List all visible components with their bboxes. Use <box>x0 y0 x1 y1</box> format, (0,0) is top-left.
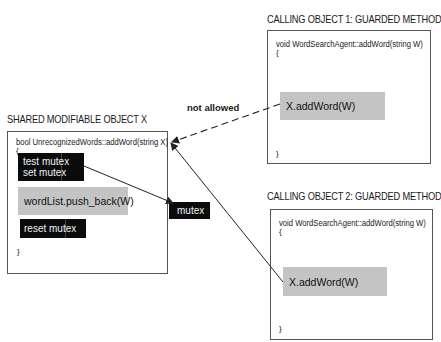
close-brace: } <box>17 247 20 256</box>
shared-object-title: SHARED MODIFIABLE OBJECT X <box>7 113 147 125</box>
close-brace: } <box>279 324 282 333</box>
shared-object-signature: bool UnrecognizedWords::addWord(string X… <box>16 137 168 147</box>
open-brace: { <box>276 48 279 57</box>
call-statement-2: X.addWord(W) <box>289 276 358 288</box>
calling-object-1-title: CALLING OBJECT 1: GUARDED METHOD <box>267 13 441 25</box>
reset-mutex-label: reset mutex <box>24 223 76 234</box>
mutex-block: mutex <box>169 202 210 219</box>
calling-object-1-frame: void WordSearchAgent::addWord(string W) … <box>267 30 431 164</box>
call-block-2: X.addWord(W) <box>283 267 387 296</box>
not-allowed-label: not allowed <box>187 102 239 113</box>
call-block-1: X.addWord(W) <box>280 92 385 120</box>
body-statement-block: wordList.push_back(W) <box>18 187 128 215</box>
calling-object-2-frame: void WordSearchAgent::addWord(string W) … <box>270 209 433 340</box>
shared-object-frame: bool UnrecognizedWords::addWord(string X… <box>7 131 168 274</box>
body-statement: wordList.push_back(W) <box>24 195 134 207</box>
calling-object-1-signature: void WordSearchAgent::addWord(string W) <box>276 39 423 49</box>
calling-object-2-title: CALLING OBJECT 2: GUARDED METHOD <box>267 190 441 202</box>
test-mutex-label: test mutex <box>23 156 69 167</box>
lock-block: test mutex set mutex <box>18 153 84 181</box>
calling-object-2-signature: void WordSearchAgent::addWord(string W) <box>279 218 426 228</box>
set-mutex-label: set mutex <box>23 167 66 178</box>
mutex-label: mutex <box>177 205 204 216</box>
unlock-block: reset mutex <box>20 219 86 238</box>
close-brace: } <box>276 149 279 158</box>
open-brace: { <box>279 227 282 236</box>
call-statement-1: X.addWord(W) <box>286 100 355 112</box>
